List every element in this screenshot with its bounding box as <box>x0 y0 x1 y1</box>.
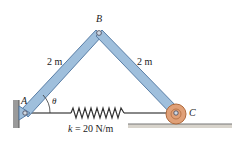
label-point-c: C <box>189 108 196 118</box>
label-angle-theta: θ <box>52 97 56 106</box>
spring-k-value: = 20 N/m <box>72 123 113 134</box>
label-length-ab: 2 m <box>47 57 62 67</box>
label-point-b: B <box>96 14 102 24</box>
label-spring-constant: k = 20 N/m <box>68 124 113 134</box>
member-bc <box>96 30 180 116</box>
mechanism-diagram <box>0 0 238 148</box>
spring <box>71 108 124 118</box>
label-length-bc: 2 m <box>137 57 152 67</box>
wall-support <box>13 100 19 128</box>
pin-c <box>174 111 178 115</box>
pin-a <box>23 111 27 115</box>
ground-surface <box>128 124 232 128</box>
label-point-a: A <box>21 96 27 106</box>
member-ab <box>22 30 102 117</box>
pin-b <box>97 31 102 36</box>
